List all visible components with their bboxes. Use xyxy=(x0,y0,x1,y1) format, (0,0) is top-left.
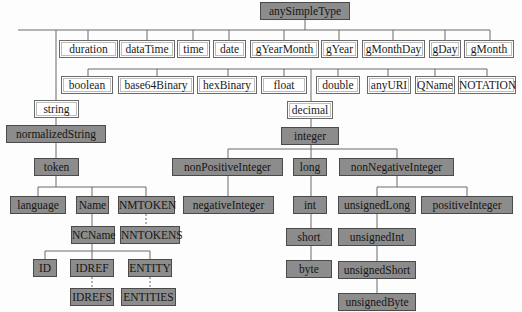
node-Name: Name xyxy=(76,196,109,214)
node-dataTime: dataTime xyxy=(119,40,175,58)
node-positiveInteger: positiveInteger xyxy=(421,196,513,214)
node-int: int xyxy=(293,196,327,214)
node-gMonthDay: gMonthDay xyxy=(362,40,425,58)
node-byte: byte xyxy=(286,260,332,278)
node-NCName: NCName xyxy=(71,226,115,244)
node-negativeInteger: negativeInteger xyxy=(183,196,274,214)
node-NOTATION: NOTATION xyxy=(458,76,516,94)
node-date: date xyxy=(213,40,246,58)
node-hexBinary: hexBinary xyxy=(197,76,257,94)
node-language: language xyxy=(10,196,66,214)
node-gYearMonth: gYearMonth xyxy=(250,40,319,58)
node-NNTOKENS: NNTOKENS xyxy=(120,226,180,244)
node-string: string xyxy=(34,100,79,118)
node-float: float xyxy=(261,76,307,94)
node-nonPositiveInteger: nonPositiveInteger xyxy=(172,158,283,176)
node-decimal: decimal xyxy=(287,101,333,119)
node-boolean: boolean xyxy=(61,76,113,94)
node-anyURI: anyURI xyxy=(367,76,411,94)
node-IDREFS: IDREFS xyxy=(70,288,114,306)
node-base64Binary: base64Binary xyxy=(118,76,194,94)
node-gDay: gDay xyxy=(429,40,461,58)
node-double: double xyxy=(316,76,360,94)
node-normalizedString: normalizedString xyxy=(6,125,106,143)
node-QName: QName xyxy=(415,76,455,94)
node-long: long xyxy=(293,158,327,176)
node-unsignedByte: unsignedByte xyxy=(338,293,416,311)
node-IDREF: IDREF xyxy=(70,259,114,277)
node-short: short xyxy=(286,228,332,246)
type-hierarchy-diagram: anySimpleType duration dataTime time dat… xyxy=(0,0,522,312)
node-unsignedLong: unsignedLong xyxy=(338,196,416,214)
node-unsignedShort: unsignedShort xyxy=(338,261,416,279)
node-token: token xyxy=(34,158,79,176)
node-duration: duration xyxy=(59,40,118,58)
node-NMTOKEN: NMTOKEN xyxy=(118,196,175,214)
node-anySimpleType: anySimpleType xyxy=(260,2,350,20)
node-integer: integer xyxy=(281,127,339,145)
node-gYear: gYear xyxy=(321,40,358,58)
node-unsignedInt: unsignedInt xyxy=(338,228,416,246)
node-nonNegativeInteger: nonNegativeInteger xyxy=(339,158,454,176)
node-time: time xyxy=(177,40,210,58)
node-ID: ID xyxy=(33,259,57,277)
node-gMonth: gMonth xyxy=(464,40,514,58)
node-ENTITY: ENTITY xyxy=(128,259,172,277)
node-ENTITIES: ENTITIES xyxy=(121,288,176,306)
